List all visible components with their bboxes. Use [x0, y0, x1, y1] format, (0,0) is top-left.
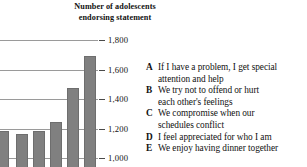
- legend-text-e-line-1: We enjoy having dinner together: [158, 143, 307, 155]
- bar-2-foot: [16, 159, 28, 167]
- legend-key-c: C: [146, 108, 156, 120]
- bar-chart-figure: Number of adolescents endorsing statemen…: [0, 0, 307, 167]
- bar-6-foot: [84, 159, 96, 167]
- legend-text-a-line-2: attention and help: [158, 74, 307, 86]
- legend-key-b: B: [146, 85, 156, 97]
- axis-label-1200: 1,200: [108, 125, 128, 134]
- legend-item-d: D I feel appreciated for who I am: [146, 132, 307, 144]
- legend-key-a: A: [146, 62, 156, 74]
- chart-title: Number of adolescents endorsing statemen…: [53, 2, 177, 23]
- legend-text-a-line-1: If I have a problem, I get special: [158, 62, 307, 74]
- tick-1800: [99, 40, 105, 41]
- tick-1000: [99, 158, 105, 159]
- legend-item-e: E We enjoy having dinner together: [146, 143, 307, 155]
- gridline-1800: [0, 40, 98, 41]
- axis-label-1800: 1,800: [108, 36, 128, 45]
- tick-1400: [99, 99, 105, 100]
- legend-text-c-line-2: schedules conflict: [158, 120, 307, 132]
- chart-title-line-2: endorsing statement: [53, 13, 177, 24]
- legend-key-e: E: [146, 143, 156, 155]
- legend-text-b-line-1: We try not to offend or hurt: [158, 85, 307, 97]
- legend-item-a: A If I have a problem, I get special att…: [146, 62, 307, 85]
- axis-label-1400: 1,400: [108, 95, 128, 104]
- legend-item-c: C We compromise when our schedules confl…: [146, 108, 307, 131]
- legend-item-b: B We try not to offend or hurt each othe…: [146, 85, 307, 108]
- legend-key-d: D: [146, 132, 156, 144]
- plot-area: 1,800 1,600 1,400 1,200 1,000: [0, 30, 98, 167]
- legend-text-d-line-1: I feel appreciated for who I am: [158, 132, 307, 144]
- bar-5: [67, 88, 79, 167]
- chart-title-line-1: Number of adolescents: [53, 2, 177, 13]
- tick-1200: [99, 129, 105, 130]
- chart-legend: A If I have a problem, I get special att…: [146, 62, 307, 155]
- bar-5-foot: [67, 159, 79, 167]
- bar-3-foot: [33, 159, 45, 167]
- tick-1600: [99, 70, 105, 71]
- bar-1-foot: [0, 159, 9, 167]
- axis-label-1000: 1,000: [108, 154, 128, 163]
- legend-text-c-line-1: We compromise when our: [158, 108, 307, 120]
- axis-label-1600: 1,600: [108, 66, 128, 75]
- bar-6: [84, 56, 96, 167]
- bar-4-foot: [50, 159, 62, 167]
- legend-text-b-line-2: each other's feelings: [158, 97, 307, 109]
